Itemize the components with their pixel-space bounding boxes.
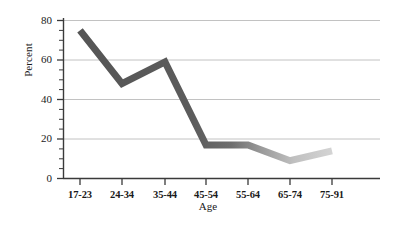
grid-lines <box>63 21 380 140</box>
y-major-ticks <box>57 21 63 179</box>
x-axis-title: Age <box>78 200 338 212</box>
ytick-label-0: 0 <box>22 173 52 184</box>
x-axis-ticks <box>80 179 332 186</box>
xtick-label-75-91: 75-91 <box>306 189 358 200</box>
chart-container: 80 60 40 20 0 17-23 24-34 35-44 45-54 55… <box>0 0 395 225</box>
y-axis-title: Percent <box>20 0 36 140</box>
data-series-line <box>80 30 332 160</box>
